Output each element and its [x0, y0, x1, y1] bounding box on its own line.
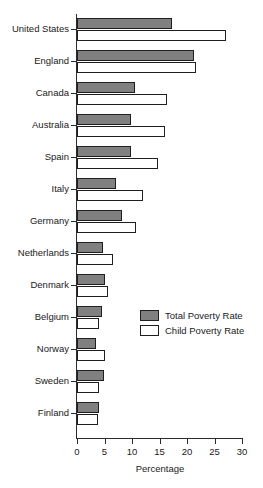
category-label: Canada — [1, 88, 69, 98]
category-label: Australia — [1, 120, 69, 130]
y-axis-tick — [71, 221, 77, 222]
bar-group — [77, 50, 242, 74]
bar-group — [77, 114, 242, 138]
bar-total-poverty — [77, 18, 172, 29]
x-axis-tick — [187, 439, 188, 444]
y-axis-tick — [71, 413, 77, 414]
bar-group — [77, 18, 242, 42]
x-axis-tick — [160, 439, 161, 444]
category-label: Germany — [1, 216, 69, 226]
plot-area — [77, 14, 242, 438]
bar-total-poverty — [77, 274, 105, 285]
category-label: Finland — [1, 408, 69, 418]
category-label: Sweden — [1, 376, 69, 386]
bar-total-poverty — [77, 338, 96, 349]
category-label: Belgium — [1, 312, 69, 322]
x-axis-tick — [215, 439, 216, 444]
bar-group — [77, 274, 242, 298]
bar-total-poverty — [77, 178, 116, 189]
chart-legend: Total Poverty Rate Child Poverty Rate — [140, 308, 244, 338]
x-axis-tick — [242, 439, 243, 444]
x-axis-tick-label: 30 — [227, 446, 257, 457]
bar-total-poverty — [77, 114, 131, 125]
y-axis-tick — [71, 285, 77, 286]
bar-child-poverty — [77, 414, 98, 425]
legend-item-child: Child Poverty Rate — [140, 323, 244, 337]
y-axis-tick — [71, 29, 77, 30]
bar-child-poverty — [77, 254, 113, 265]
bar-child-poverty — [77, 30, 226, 41]
legend-label-total: Total Poverty Rate — [165, 310, 243, 321]
category-label: Denmark — [1, 280, 69, 290]
bar-group — [77, 210, 242, 234]
category-label: Spain — [1, 152, 69, 162]
bar-total-poverty — [77, 50, 194, 61]
bar-child-poverty — [77, 222, 136, 233]
x-axis-tick-label: 0 — [62, 446, 92, 457]
legend-swatch-total — [140, 310, 159, 321]
y-axis-tick — [71, 157, 77, 158]
y-axis-tick — [71, 253, 77, 254]
bar-total-poverty — [77, 242, 103, 253]
category-label: Italy — [1, 184, 69, 194]
bar-group — [77, 242, 242, 266]
bar-total-poverty — [77, 306, 102, 317]
bar-child-poverty — [77, 190, 143, 201]
bar-group — [77, 178, 242, 202]
bar-group — [77, 338, 242, 362]
bar-child-poverty — [77, 62, 196, 73]
x-axis-tick — [77, 439, 78, 444]
poverty-rate-bar-chart: United StatesEnglandCanadaAustraliaSpain… — [0, 0, 263, 488]
bar-group — [77, 146, 242, 170]
y-axis-tick — [71, 381, 77, 382]
x-axis-tick-label: 20 — [172, 446, 202, 457]
bar-child-poverty — [77, 286, 108, 297]
y-axis-tick — [71, 61, 77, 62]
bar-child-poverty — [77, 94, 167, 105]
legend-label-child: Child Poverty Rate — [165, 325, 244, 336]
bar-child-poverty — [77, 350, 105, 361]
y-axis-tick — [71, 349, 77, 350]
bar-child-poverty — [77, 158, 158, 169]
y-axis-tick — [71, 189, 77, 190]
bar-total-poverty — [77, 82, 135, 93]
bar-child-poverty — [77, 126, 165, 137]
bar-group — [77, 82, 242, 106]
x-axis-tick — [132, 439, 133, 444]
y-axis-tick — [71, 317, 77, 318]
x-axis-tick-label: 15 — [145, 446, 175, 457]
bar-group — [77, 370, 242, 394]
legend-item-total: Total Poverty Rate — [140, 308, 244, 322]
x-axis-tick-label: 10 — [117, 446, 147, 457]
x-axis-title: Percentage — [77, 463, 243, 474]
category-label-column: United StatesEnglandCanadaAustraliaSpain… — [0, 0, 69, 488]
x-axis-tick-label: 25 — [200, 446, 230, 457]
bar-total-poverty — [77, 370, 104, 381]
bar-child-poverty — [77, 382, 99, 393]
x-axis-tick — [105, 439, 106, 444]
bar-group — [77, 402, 242, 426]
bar-total-poverty — [77, 146, 131, 157]
bar-total-poverty — [77, 210, 122, 221]
category-label: Norway — [1, 344, 69, 354]
category-label: Netherlands — [1, 248, 69, 258]
legend-swatch-child — [140, 325, 159, 336]
y-axis-tick — [71, 125, 77, 126]
y-axis-tick — [71, 93, 77, 94]
category-label: United States — [1, 24, 69, 34]
bar-total-poverty — [77, 402, 99, 413]
category-label: England — [1, 56, 69, 66]
bar-child-poverty — [77, 318, 99, 329]
x-axis-tick-label: 5 — [90, 446, 120, 457]
